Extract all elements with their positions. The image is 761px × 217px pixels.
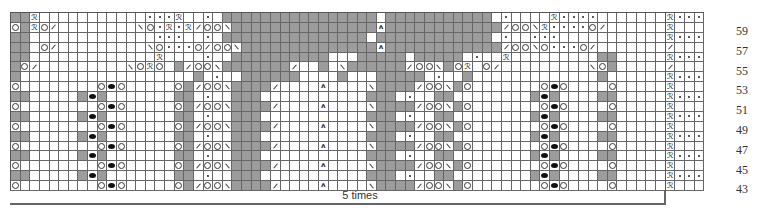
stitch-cell — [50, 13, 60, 23]
stitch-cell — [415, 161, 425, 171]
bobble-icon — [107, 122, 116, 131]
yarn-over-icon — [11, 23, 20, 32]
stitch-cell — [454, 72, 464, 82]
bobble-icon — [107, 142, 116, 151]
twisted-stitch-icon: ℛ — [666, 132, 675, 141]
yarn-over-icon — [155, 43, 164, 52]
yarn-over-icon — [415, 62, 424, 71]
stitch-cell — [232, 72, 242, 82]
yarn-over-icon — [608, 161, 617, 170]
stitch-cell — [290, 142, 300, 152]
bobble-icon — [107, 82, 116, 91]
stitch-cell — [695, 33, 705, 43]
stitch-cell: ʌ — [377, 23, 387, 33]
stitch-cell — [59, 122, 69, 132]
stitch-cell — [444, 72, 454, 82]
purl-icon — [560, 43, 569, 52]
stitch-cell — [300, 72, 310, 82]
stitch-cell — [589, 72, 599, 82]
row-number: 43 — [736, 182, 748, 197]
stitch-cell — [213, 181, 223, 191]
stitch-cell — [492, 122, 502, 132]
stitch-cell — [646, 151, 656, 161]
k2tog-icon — [415, 102, 424, 111]
stitch-cell — [300, 13, 310, 23]
yarn-over-icon — [117, 181, 126, 190]
stitch-cell — [646, 181, 656, 191]
ssk-icon — [223, 82, 232, 91]
stitch-cell — [184, 53, 194, 63]
stitch-cell — [358, 132, 368, 142]
stitch-cell — [406, 92, 416, 102]
stitch-cell — [406, 151, 416, 161]
stitch-cell — [386, 132, 396, 142]
stitch-cell — [521, 92, 531, 102]
twisted-stitch-icon: ℛ — [463, 62, 472, 71]
stitch-cell — [117, 102, 127, 112]
stitch-cell — [396, 72, 406, 82]
stitch-cell — [560, 132, 570, 142]
stitch-cell — [695, 43, 705, 53]
stitch-cell — [695, 171, 705, 181]
purl-icon — [165, 43, 174, 52]
stitch-cell — [21, 23, 31, 33]
stitch-cell — [232, 151, 242, 161]
stitch-cell: ℛ — [666, 102, 676, 112]
stitch-cell — [492, 171, 502, 181]
stitch-cell — [194, 13, 204, 23]
stitch-cell — [98, 43, 108, 53]
stitch-cell — [290, 72, 300, 82]
k2tog-icon — [415, 142, 424, 151]
stitch-cell — [617, 53, 627, 63]
stitch-cell — [348, 53, 358, 63]
stitch-cell — [223, 53, 233, 63]
ssk-icon — [367, 142, 376, 151]
stitch-cell — [136, 102, 146, 112]
twisted-stitch-icon: ℛ — [666, 151, 675, 160]
stitch-cell — [213, 132, 223, 142]
stitch-cell — [127, 82, 137, 92]
stitch-cell — [117, 142, 127, 152]
stitch-cell — [204, 122, 214, 132]
stitch-cell — [540, 82, 550, 92]
stitch-cell — [252, 23, 262, 33]
stitch-cell — [184, 33, 194, 43]
yarn-over-icon — [454, 62, 463, 71]
k2tog-icon — [492, 62, 501, 71]
purl-icon — [685, 13, 694, 22]
stitch-cell — [531, 171, 541, 181]
stitch-cell — [59, 161, 69, 171]
stitch-cell — [492, 43, 502, 53]
stitch-cell — [637, 23, 647, 33]
twisted-stitch-icon: ℛ — [666, 13, 675, 22]
stitch-cell — [396, 122, 406, 132]
stitch-cell — [454, 132, 464, 142]
stitch-cell — [242, 102, 252, 112]
stitch-cell — [78, 53, 88, 63]
stitch-cell — [483, 13, 493, 23]
stitch-cell — [338, 43, 348, 53]
k2tog-icon — [271, 142, 280, 151]
stitch-cell — [454, 62, 464, 72]
stitch-cell — [117, 122, 127, 132]
stitch-cell — [338, 142, 348, 152]
stitch-cell — [107, 112, 117, 122]
stitch-cell — [637, 112, 647, 122]
stitch-cell: ʌ — [319, 161, 329, 171]
stitch-cell — [666, 43, 676, 53]
stitch-cell — [386, 112, 396, 122]
stitch-cell — [569, 13, 579, 23]
stitch-cell — [290, 43, 300, 53]
stitch-cell — [290, 161, 300, 171]
stitch-cell — [675, 43, 685, 53]
stitch-cell — [88, 23, 98, 33]
stitch-cell — [136, 161, 146, 171]
stitch-cell — [204, 171, 214, 181]
stitch-cell — [454, 151, 464, 161]
stitch-cell — [463, 43, 473, 53]
stitch-cell — [463, 112, 473, 122]
stitch-cell — [579, 122, 589, 132]
stitch-cell — [492, 23, 502, 33]
stitch-cell — [252, 43, 262, 53]
stitch-cell — [608, 122, 618, 132]
